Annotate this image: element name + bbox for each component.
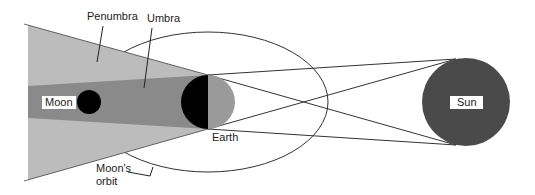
umbra-label: Umbra — [147, 12, 181, 24]
lunar-eclipse-diagram: Penumbra Umbra Moon Earth Sun Moon's orb… — [0, 0, 535, 195]
moon — [77, 90, 101, 114]
ray-cross-1 — [208, 75, 456, 145]
earth-day-side — [208, 75, 235, 129]
orbit-label-line1: Moon's — [96, 162, 132, 174]
earth-label: Earth — [212, 131, 238, 143]
moon-label: Moon — [45, 96, 73, 108]
orbit-leader — [128, 167, 153, 176]
earth — [181, 75, 235, 129]
penumbra-label: Penumbra — [87, 10, 139, 22]
ray-bottom-outer — [208, 129, 456, 145]
sun-label: Sun — [457, 96, 477, 108]
ray-cross-2 — [208, 59, 456, 129]
ray-top-outer — [208, 59, 456, 75]
orbit-label-line2: orbit — [96, 175, 117, 187]
